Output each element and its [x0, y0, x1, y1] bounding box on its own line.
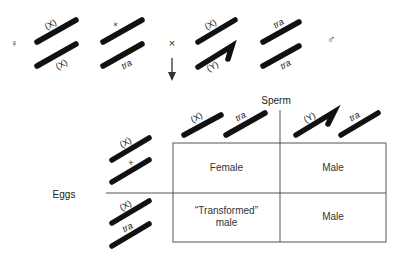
cell-label: Male [322, 211, 344, 222]
female-autosome-plus [103, 20, 142, 42]
cell-label: Female [210, 162, 243, 173]
male-autosome-label-2: tra [278, 57, 292, 71]
cell-male-1: Male [280, 162, 386, 174]
cell-transformed-male: “Transformed” male [173, 205, 280, 229]
cell-label: Male [322, 162, 344, 173]
female-symbol: ♀ [10, 37, 18, 49]
cell-label-line-1: “Transformed” [173, 205, 280, 217]
down-arrow-icon [168, 58, 176, 81]
female-autosome-label-2: tra [119, 57, 133, 71]
egg1-autosome-label: + [128, 158, 133, 168]
cell-female: Female [173, 162, 280, 174]
female-sex-label-2: (X) [54, 57, 69, 72]
female-autosome-label-1: + [111, 19, 121, 30]
cross-symbol: × [169, 37, 175, 49]
cell-label-line-2: male [173, 217, 280, 229]
sperm-label: Sperm [261, 95, 290, 106]
eggs-label: Eggs [53, 189, 76, 200]
male-symbol: ♂ [327, 33, 335, 45]
cell-male-2: Male [280, 211, 386, 223]
